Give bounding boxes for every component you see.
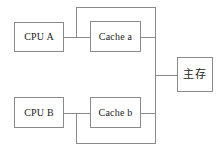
node-cache-a: Cache a [90,21,141,52]
node-main-memory: 主存 [177,57,213,92]
node-cache-b: Cache b [90,97,141,128]
node-cpu-b: CPU B [14,97,64,128]
node-cpu-b-label: CPU B [24,108,54,118]
node-cpu-a-label: CPU A [24,32,54,42]
node-main-memory-label: 主存 [183,69,207,80]
node-cache-b-label: Cache b [99,108,133,118]
node-cpu-a: CPU A [14,22,64,52]
node-cache-a-label: Cache a [99,32,132,42]
block-diagram: CPU A Cache a CPU B Cache b 主存 [0,0,219,152]
